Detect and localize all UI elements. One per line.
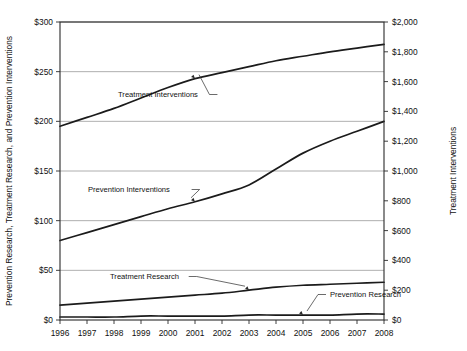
line-chart: $0$50$100$150$200$250$300 $0$200$400$600… — [0, 0, 467, 351]
right-tick-label: $0 — [392, 315, 402, 325]
left-tick-label: $100 — [34, 216, 53, 226]
right-tick-label: $800 — [392, 196, 411, 206]
annotation-label: Prevention Research — [330, 290, 401, 299]
x-tick-label: 2001 — [186, 328, 205, 338]
x-tick-label: 2006 — [321, 328, 340, 338]
annotation-leader-line — [307, 295, 326, 312]
right-tick-label: $1,400 — [392, 106, 418, 116]
right-tick-label: $1,600 — [392, 77, 418, 87]
right-axis-title: Treatment Interventions — [448, 127, 458, 215]
gridlines — [60, 22, 384, 270]
x-tick-label: 1999 — [132, 328, 151, 338]
annotation-label: Treatment Interventions — [118, 90, 198, 99]
x-tick-label: 2005 — [294, 328, 313, 338]
series-line-prevention-research — [60, 314, 384, 317]
left-tick-label: $300 — [34, 17, 53, 27]
annotation-label: Prevention Interventions — [88, 185, 170, 194]
series-annotations: Treatment InterventionsPrevention Interv… — [88, 75, 401, 315]
x-tick-label: 2002 — [213, 328, 232, 338]
x-tick-label: 2004 — [267, 328, 286, 338]
left-tick-label: $150 — [34, 166, 53, 176]
right-tick-label: $1,200 — [392, 136, 418, 146]
x-tick-label: 2000 — [159, 328, 178, 338]
right-tick-label: $2,000 — [392, 17, 418, 27]
left-axis-title: Prevention Research, Treatment Research,… — [4, 36, 14, 306]
left-tick-label: $200 — [34, 116, 53, 126]
annotation-label: Treatment Research — [110, 272, 179, 281]
x-tick-label: 2008 — [375, 328, 394, 338]
left-axis-ticks: $0$50$100$150$200$250$300 — [34, 17, 60, 325]
right-tick-label: $1,800 — [392, 47, 418, 57]
x-tick-label: 1997 — [78, 328, 97, 338]
left-tick-label: $50 — [39, 265, 53, 275]
right-tick-label: $1,000 — [392, 166, 418, 176]
x-tick-label: 1998 — [105, 328, 124, 338]
x-axis-ticks: 1996199719981999200020012002200320042005… — [51, 320, 394, 338]
x-tick-label: 2007 — [348, 328, 367, 338]
annotation-leader-line — [191, 190, 200, 198]
series-line-prevention-interventions — [60, 121, 384, 240]
left-tick-label: $250 — [34, 67, 53, 77]
x-tick-label: 2003 — [240, 328, 259, 338]
right-tick-label: $600 — [392, 226, 411, 236]
annotation-arrowhead — [191, 198, 195, 202]
series-lines — [60, 44, 384, 317]
right-axis-ticks: $0$200$400$600$800$1,000$1,200$1,400$1,6… — [384, 17, 418, 325]
series-line-treatment-interventions — [60, 44, 384, 126]
right-tick-label: $400 — [392, 255, 411, 265]
x-tick-label: 1996 — [51, 328, 70, 338]
left-tick-label: $0 — [44, 315, 54, 325]
chart-container: $0$50$100$150$200$250$300 $0$200$400$600… — [0, 0, 467, 351]
annotation-arrowhead — [191, 75, 195, 79]
annotation-leader-line — [189, 277, 245, 287]
